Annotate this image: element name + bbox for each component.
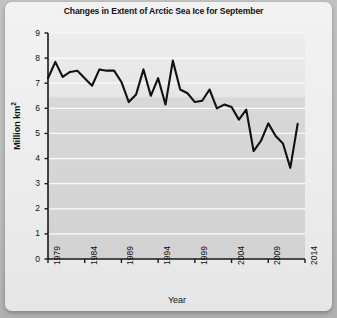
y-tick-label: 8	[24, 53, 40, 63]
y-tick-label: 2	[24, 203, 40, 213]
x-tick-label: 1984	[89, 246, 99, 265]
y-axis-label: Million km2	[10, 86, 22, 166]
y-tick-label: 9	[24, 28, 40, 38]
y-tick-label: 3	[24, 178, 40, 188]
y-tick-label: 0	[24, 254, 40, 264]
y-tick-label: 6	[24, 103, 40, 113]
line-chart-svg	[0, 0, 337, 318]
y-axis-label-text: Million km	[12, 106, 22, 150]
x-tick-label: 2004	[236, 246, 246, 265]
x-tick-label: 2014	[309, 246, 319, 265]
y-tick-label: 5	[24, 128, 40, 138]
plot-background	[48, 33, 305, 259]
y-tick-label: 4	[24, 153, 40, 163]
plot-area-container: Million km2 Year 9876543210 197919841989…	[0, 0, 337, 318]
x-tick-label: 1979	[52, 246, 62, 265]
x-tick-label: 1994	[162, 246, 172, 265]
y-axis-label-exponent: 2	[10, 102, 17, 106]
x-tick-label: 1999	[199, 246, 209, 265]
x-tick-label: 1989	[125, 246, 135, 265]
x-tick-label: 2009	[272, 246, 282, 265]
y-tick-label: 7	[24, 78, 40, 88]
chart-screenshot: Changes in Extent of Arctic Sea Ice for …	[0, 0, 337, 318]
x-axis-label: Year	[48, 295, 306, 305]
y-tick-label: 1	[24, 228, 40, 238]
